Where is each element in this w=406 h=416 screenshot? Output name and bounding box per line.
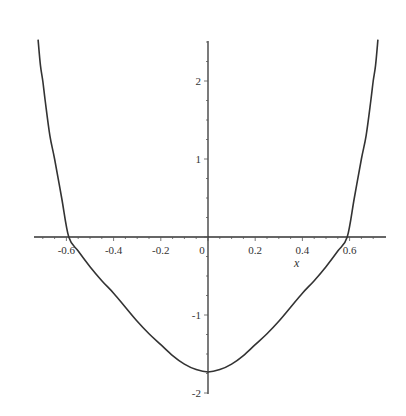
x-tick-label: -0.4 bbox=[105, 244, 123, 256]
x-tick-label: -0.2 bbox=[152, 244, 169, 256]
function-plot: -0.6-0.4-0.200.20.40.6-2-112 x bbox=[0, 0, 406, 416]
x-axis-label: x bbox=[293, 256, 300, 270]
x-tick-label: 0.4 bbox=[296, 244, 310, 256]
y-tick-label: -2 bbox=[192, 387, 201, 399]
x-tick-label: 0 bbox=[199, 244, 205, 256]
y-tick-label: -1 bbox=[192, 309, 201, 321]
axes bbox=[34, 41, 386, 394]
y-tick-label: 1 bbox=[196, 153, 202, 165]
y-tick-label: 2 bbox=[196, 75, 202, 87]
x-tick-label: 0.6 bbox=[343, 244, 357, 256]
x-tick-label: 0.2 bbox=[248, 244, 262, 256]
